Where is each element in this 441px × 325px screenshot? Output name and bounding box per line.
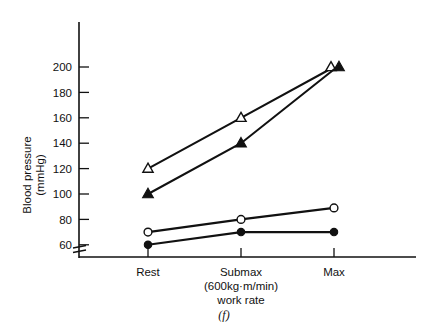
x-label-rest: Rest [136,266,160,278]
y-axis-title-line1: Blood pressure [21,136,33,213]
y-axis-title-line2: (mmHg) [34,154,46,196]
y-tick-label-180: 180 [53,87,72,99]
x-label-submax: Submax [220,266,262,278]
marker-filled-circle-rest [144,241,151,248]
marker-filled-circle-max [330,228,337,235]
series-filled-triangle [143,61,345,198]
y-tick-label-140: 140 [53,137,72,149]
y-tick-label-100: 100 [53,188,72,200]
y-tick-label-80: 80 [59,214,72,226]
x-tick-marks [148,248,334,257]
x-label-submax-workrate: work rate [216,294,264,306]
series-filled-circle [144,228,337,248]
y-tick-label-60: 60 [59,239,72,251]
figure-caption-label: (f) [218,308,229,322]
marker-open-circle-max [330,204,338,212]
y-tick-labels: 60 80 100 120 140 160 180 200 [53,61,72,251]
y-tick-label-160: 160 [53,112,72,124]
marker-open-circle-rest [144,228,152,236]
y-axis-title: Blood pressure (mmHg) [21,136,46,213]
series-filled-triangle-line [148,67,337,194]
series-open-triangle [143,62,336,173]
blood-pressure-chart-figure: 60 80 100 120 140 160 180 200 Blood pres… [0,0,441,325]
axes-group [79,22,416,258]
y-tick-label-120: 120 [53,163,72,175]
marker-filled-triangle-submax [236,137,247,147]
x-category-labels: Rest Submax (600kg·m/min) work rate Max [136,266,345,306]
y-tick-label-200: 200 [53,61,72,73]
marker-filled-triangle-max [334,61,345,71]
chart-canvas: 60 80 100 120 140 160 180 200 Blood pres… [0,0,441,325]
marker-filled-circle-submax [237,228,244,235]
x-label-max: Max [323,266,345,278]
y-tick-marks [79,67,89,245]
marker-open-circle-submax [237,216,245,224]
x-label-submax-workload: (600kg·m/min) [204,280,278,292]
